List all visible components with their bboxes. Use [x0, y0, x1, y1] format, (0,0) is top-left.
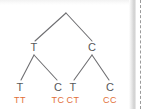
node-label-t: T — [24, 42, 44, 53]
branch-t-to-left-t — [21, 55, 34, 80]
page-gutter-shadow — [129, 0, 136, 109]
crop-guide-line — [140, 0, 141, 109]
genotype-label-tt: TT — [8, 96, 32, 105]
node-label-c: C — [82, 42, 102, 53]
branch-c-to-right-c — [92, 55, 109, 80]
leaf-label-c-right: C — [100, 82, 120, 93]
branch-root-to-t — [35, 13, 66, 41]
genotype-label-cc: CC — [98, 96, 122, 105]
leaf-label-t-right: T — [63, 82, 83, 93]
genotype-label-ct: CT — [61, 96, 85, 105]
branch-t-to-left-c — [34, 55, 57, 80]
branch-c-to-right-t — [74, 55, 92, 80]
leaf-label-t-left: T — [10, 82, 30, 93]
branch-root-to-c — [66, 13, 92, 41]
figure-root: T C T C T C TT TC CT CC — [0, 0, 146, 109]
